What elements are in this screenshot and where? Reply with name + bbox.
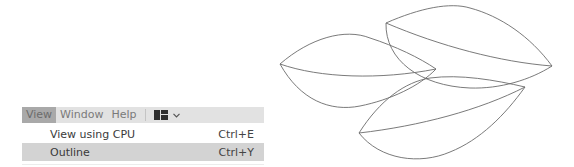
menu-item-view-using-cpu[interactable]: View using CPU Ctrl+E <box>22 125 264 143</box>
chevron-down-icon <box>173 113 180 118</box>
leaf-top-right-outline[interactable] <box>386 6 552 88</box>
menu-help[interactable]: Help <box>107 107 140 123</box>
leaf-bottom-outline[interactable] <box>359 77 525 159</box>
menu-item-label: Outline <box>50 146 90 159</box>
menu-separator <box>145 109 146 121</box>
menu-item-label: View using CPU <box>50 128 135 141</box>
menu-bar: View Window Help <box>22 107 264 123</box>
workspace-layout-icon <box>154 110 168 120</box>
workspace-switcher-button[interactable] <box>152 107 182 123</box>
menu-window[interactable]: Window <box>56 107 107 123</box>
menu-item-outline[interactable]: Outline Ctrl+Y <box>22 143 264 161</box>
menu-item-shortcut: Ctrl+Y <box>218 146 254 159</box>
menu-view[interactable]: View <box>22 107 56 123</box>
view-menu-dropdown: View using CPU Ctrl+E Outline Ctrl+Y <box>22 123 264 165</box>
menu-item-shortcut: Ctrl+E <box>218 128 254 141</box>
